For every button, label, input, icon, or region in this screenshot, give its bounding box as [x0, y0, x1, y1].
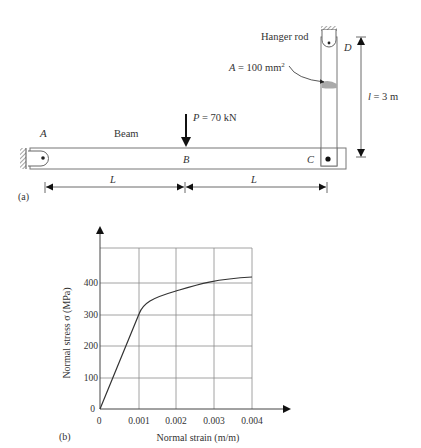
dim-l-arrow-up-icon — [357, 37, 365, 45]
area-label: A = 100 mm2 — [228, 61, 285, 73]
wall-support-hatch — [20, 148, 26, 169]
point-label-a: A — [39, 127, 47, 139]
length-label: l = 3 m — [368, 91, 398, 102]
figure-a-structure: A Beam P = 70 kN B D Hanger rod A = 100 … — [18, 26, 398, 203]
pin-a-icon — [41, 156, 45, 160]
pin-c-icon — [325, 156, 330, 161]
y-tick-300: 300 — [84, 310, 99, 320]
point-label-c: C — [307, 154, 315, 165]
dim-l-arrow-down-icon — [357, 149, 365, 157]
y-axis-arrow-icon — [96, 226, 104, 234]
x-tick-0001: 0.001 — [128, 416, 150, 426]
y-tick-0: 0 — [90, 404, 95, 414]
point-label-b: B — [183, 154, 190, 165]
load-arrow-icon — [181, 137, 191, 147]
dim-L-arrow-2-right-icon — [319, 184, 326, 191]
x-axis-label: Normal strain (m/m) — [157, 432, 240, 444]
ceiling-support-hatch — [321, 26, 337, 30]
dim-L-arrow-1-right-icon — [177, 184, 184, 191]
hanger-rod — [321, 37, 337, 166]
pin-d-icon — [328, 42, 331, 45]
x-axis-arrow-icon — [283, 405, 291, 413]
x-tick-0004: 0.004 — [241, 416, 263, 426]
figure-a-label: (a) — [18, 191, 29, 203]
span-label-1: L — [109, 174, 116, 185]
area-leader-arrow — [289, 66, 324, 82]
y-tick-400: 400 — [84, 278, 99, 288]
pin-clevis-d — [322, 30, 336, 47]
span-label-2: L — [250, 174, 257, 185]
stress-strain-chart: 0 100 200 300 400 0 0.001 0.002 0.003 0.… — [59, 226, 291, 444]
x-tick-0002: 0.002 — [165, 416, 187, 426]
dim-L-arrow-2-left-icon — [186, 184, 193, 191]
x-tick-0003: 0.003 — [203, 416, 225, 426]
x-tick-0: 0 — [97, 416, 102, 426]
chart-grid — [100, 248, 252, 409]
point-label-d: D — [343, 42, 352, 53]
y-tick-100: 100 — [84, 373, 99, 383]
figure-b-label: (b) — [59, 431, 71, 443]
y-axis-label: Normal stress σ (MPa) — [61, 287, 73, 378]
beam-label: Beam — [114, 128, 139, 139]
figure-canvas: A Beam P = 70 kN B D Hanger rod A = 100 … — [0, 0, 421, 448]
dim-L-arrow-1-left-icon — [46, 184, 53, 191]
hanger-rod-label: Hanger rod — [261, 31, 309, 42]
pin-clevis-a — [28, 151, 49, 166]
load-label: P = 70 kN — [192, 112, 237, 123]
y-tick-200: 200 — [84, 341, 99, 351]
